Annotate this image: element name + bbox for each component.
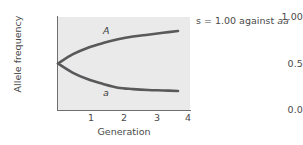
y-axis-tick-label-0.0: 0.0 (251, 105, 303, 115)
series-label-A: A (103, 26, 110, 36)
series-label-a: a (103, 88, 109, 98)
y-axis-line (57, 16, 58, 111)
allele-frequency-chart: 1.00 0.5 0.0 Allele frequency 1 2 3 4 Ge… (0, 0, 303, 145)
x-axis-tick-label-3: 3 (147, 112, 167, 123)
annotation-selection-coefficient: s = 1.00 against aa (196, 15, 289, 26)
annotation-prefix: s = 1.00 against (196, 15, 277, 26)
plot-area (58, 17, 190, 110)
x-axis-tick-label-1: 1 (81, 112, 101, 123)
y-axis-title: Allele frequency (13, 4, 23, 104)
x-axis-title: Generation (58, 126, 190, 137)
y-axis-tick-label-0.5: 0.5 (251, 59, 303, 69)
x-axis-line (57, 110, 191, 111)
x-axis-tick-label-2: 2 (114, 112, 134, 123)
annotation-genotype: aa (277, 15, 289, 26)
x-axis-tick-label-4: 4 (178, 112, 198, 123)
